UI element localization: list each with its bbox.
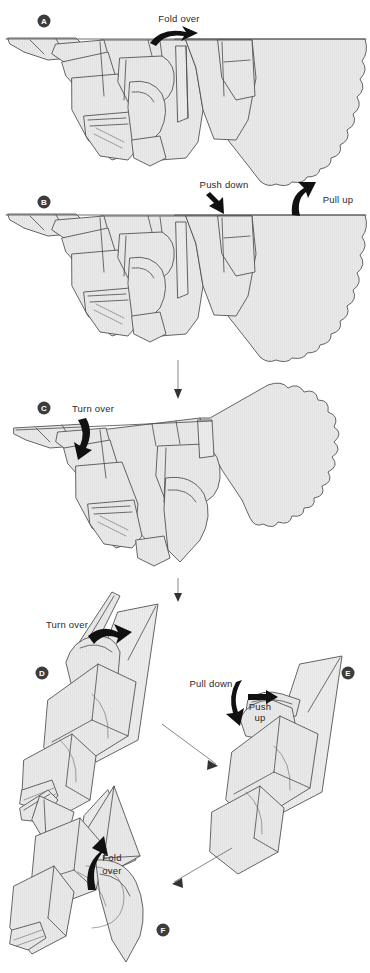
step-e-letter: E xyxy=(345,669,351,678)
label-pull-up-b: Pull up xyxy=(323,194,353,205)
step-a-badge: A xyxy=(38,15,51,28)
arrow-pull-up-b xyxy=(292,182,316,216)
step-a-letter: A xyxy=(41,17,47,26)
step-b-letter: B xyxy=(41,198,47,207)
step-c-badge: C xyxy=(38,402,51,415)
step-f-badge: F xyxy=(157,924,170,937)
step-d-badge: D xyxy=(36,667,49,680)
label-turn-over-c: Turn over xyxy=(72,403,114,414)
label-turn-over-d: Turn over xyxy=(46,619,88,630)
label-push-down-b: Push down xyxy=(200,179,249,190)
arrow-b-to-c xyxy=(174,360,182,399)
step-f-letter: F xyxy=(161,926,166,935)
label-push-up-e-line2: up xyxy=(255,712,266,723)
label-pull-down-e: Pull down xyxy=(190,678,233,689)
arrow-c-to-d xyxy=(174,578,182,602)
step-d-letter: D xyxy=(39,669,45,678)
arrow-push-down-b xyxy=(206,192,224,214)
label-fold-over-a: Fold over xyxy=(158,13,199,24)
arrow-d-to-e xyxy=(162,724,218,770)
panel-c-figure xyxy=(14,383,339,566)
step-e-badge: E xyxy=(342,667,355,680)
step-c-letter: C xyxy=(41,404,47,413)
origami-diagram-page: A Fold over xyxy=(0,0,370,973)
panel-f-figure xyxy=(10,786,143,962)
panel-d-figure xyxy=(20,592,158,822)
label-fold-over-f-line2: over xyxy=(102,865,121,876)
step-b-badge: B xyxy=(38,196,51,209)
panel-a-figure xyxy=(6,38,366,186)
panel-b-figure xyxy=(6,214,366,362)
